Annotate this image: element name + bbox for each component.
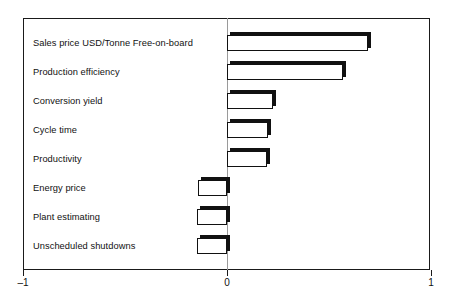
bar bbox=[227, 64, 343, 80]
bar-body bbox=[227, 64, 343, 80]
bar-body bbox=[197, 238, 227, 254]
bar-label: Sales price USD/Tonne Free-on-board bbox=[33, 37, 193, 48]
bar-label: Unscheduled shutdowns bbox=[33, 240, 135, 251]
x-axis-tick-label: 0 bbox=[224, 277, 230, 288]
bar bbox=[227, 93, 273, 109]
x-axis-tick bbox=[431, 270, 432, 276]
bar-body bbox=[198, 180, 227, 196]
bar-label: Energy price bbox=[33, 182, 86, 193]
bar-body bbox=[227, 122, 268, 138]
bar-row: Energy price bbox=[23, 173, 430, 202]
bar-label: Cycle time bbox=[33, 124, 77, 135]
bar bbox=[197, 209, 227, 225]
bar-row: Productivity bbox=[23, 144, 430, 173]
bar-body bbox=[227, 93, 273, 109]
bar bbox=[227, 35, 368, 51]
bar-body bbox=[227, 151, 267, 167]
x-axis-tick bbox=[23, 270, 24, 276]
x-axis-tick-label: –1 bbox=[17, 277, 28, 288]
bar bbox=[198, 180, 227, 196]
bar-row: Unscheduled shutdowns bbox=[23, 231, 430, 260]
bar bbox=[227, 151, 267, 167]
bar-label: Plant estimating bbox=[33, 211, 100, 222]
x-axis-tick-label: 1 bbox=[428, 277, 434, 288]
bar bbox=[197, 238, 227, 254]
x-axis-tick bbox=[227, 270, 228, 276]
bar-label: Production efficiency bbox=[33, 66, 120, 77]
bar-row: Conversion yield bbox=[23, 86, 430, 115]
bar-row: Production efficiency bbox=[23, 57, 430, 86]
bar-body bbox=[197, 209, 227, 225]
bar-body bbox=[227, 35, 368, 51]
bar-row: Plant estimating bbox=[23, 202, 430, 231]
bar bbox=[227, 122, 268, 138]
bar-row: Cycle time bbox=[23, 115, 430, 144]
tornado-chart: Sales price USD/Tonne Free-on-boardProdu… bbox=[0, 0, 449, 298]
bar-row: Sales price USD/Tonne Free-on-board bbox=[23, 28, 430, 57]
bar-label: Productivity bbox=[33, 153, 82, 164]
bar-label: Conversion yield bbox=[33, 95, 103, 106]
